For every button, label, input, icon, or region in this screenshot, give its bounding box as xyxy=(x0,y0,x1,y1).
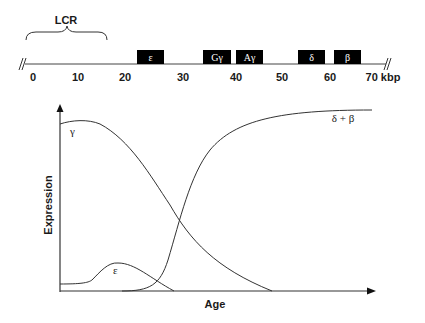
y-axis-arrow-icon xyxy=(57,104,64,112)
tick-label: 70 kbp xyxy=(366,71,401,83)
expression-chart: γ ε δ + β Age Expression xyxy=(42,104,376,310)
epsilon-label: ε xyxy=(113,264,118,276)
gamma-label: γ xyxy=(69,125,75,137)
gene-boxes: εGγAγδβ xyxy=(137,50,361,64)
gene-box-delta: δ xyxy=(298,50,325,64)
y-axis-label: Expression xyxy=(42,175,54,235)
gene-label: β xyxy=(345,52,350,63)
tick-label: 10 xyxy=(72,71,84,83)
delta-beta-label: δ + β xyxy=(332,112,355,124)
axis-tick-labels: 010203040506070 kbp xyxy=(30,71,401,83)
globin-locus-diagram: LCR εGγAγδβ 010203040506070 kbp γ ε xyxy=(0,0,425,323)
tick-label: 30 xyxy=(177,71,189,83)
x-axis-label: Age xyxy=(205,298,226,310)
gene-label: ε xyxy=(148,52,152,63)
gene-box-beta: β xyxy=(334,50,361,64)
gene-label: δ xyxy=(309,52,314,63)
locus-map: LCR εGγAγδβ 010203040506070 kbp xyxy=(19,14,401,83)
gene-box-a-gamma: Aγ xyxy=(236,50,263,64)
break-mark-left-icon xyxy=(19,58,26,70)
gene-box-epsilon: ε xyxy=(137,50,164,64)
gene-label: Gγ xyxy=(211,52,223,63)
lcr-label: LCR xyxy=(55,14,78,26)
lcr-brace xyxy=(26,26,107,40)
tick-label: 20 xyxy=(119,71,131,83)
gene-box-g-gamma: Gγ xyxy=(203,50,231,64)
tick-label: 60 xyxy=(324,71,336,83)
gene-label: Aγ xyxy=(244,52,256,63)
tick-label: 0 xyxy=(30,71,36,83)
tick-label: 50 xyxy=(276,71,288,83)
tick-label: 40 xyxy=(230,71,242,83)
delta-beta-curve xyxy=(122,110,372,291)
x-axis-arrow-icon xyxy=(367,288,376,295)
